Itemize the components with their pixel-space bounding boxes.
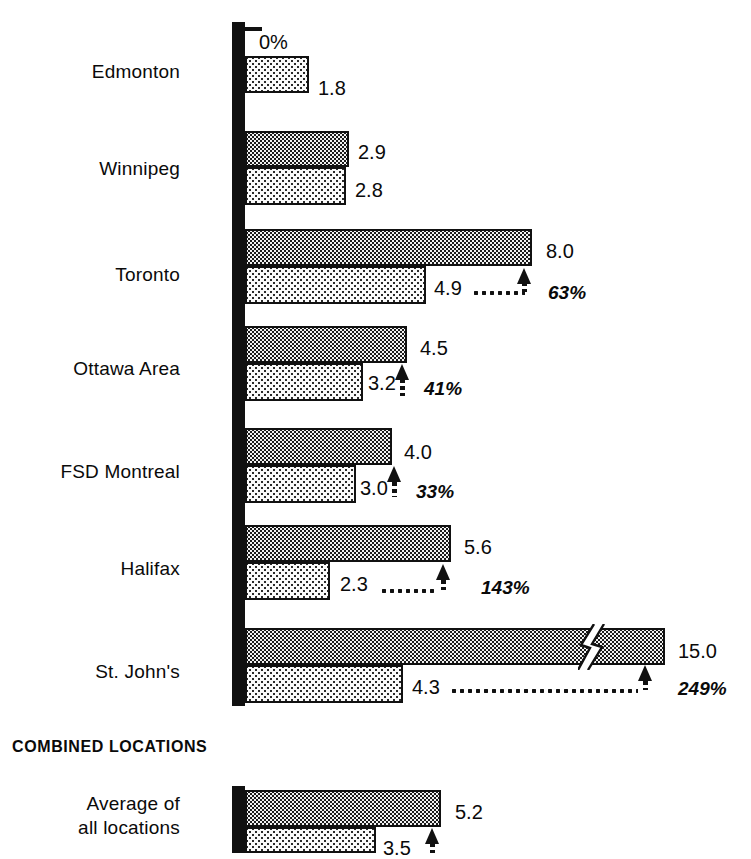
- increase-arrow-ottawa-area: [395, 364, 409, 380]
- value-label-combined-lower: 3.5: [383, 838, 411, 858]
- increase-arrow-stem-ottawa-area: [400, 379, 405, 396]
- axis-origin-label: 0%: [259, 32, 288, 52]
- value-label-winnipeg-lower: 2.8: [355, 180, 383, 200]
- bar-winnipeg-upper: [245, 131, 349, 167]
- increase-arrow-combined: [425, 828, 439, 844]
- bar-combined-upper: [245, 790, 441, 827]
- category-label-toronto: Toronto: [115, 263, 180, 286]
- increase-connector-st-johns: [450, 688, 638, 694]
- category-label-edmonton: Edmonton: [92, 60, 180, 83]
- increase-arrow-stem-st-johns: [643, 681, 648, 690]
- value-label-halifax-lower: 2.3: [340, 574, 368, 594]
- bar-toronto-upper: [245, 229, 532, 266]
- pct-label-st-johns: 249%: [678, 679, 727, 698]
- increase-arrow-fsd-montreal: [387, 466, 401, 482]
- bar-ottawa-area-upper: [245, 326, 407, 363]
- category-label-st-johns: St. John's: [95, 660, 180, 683]
- increase-arrow-stem-combined: [430, 843, 435, 853]
- increase-arrow-st-johns: [638, 665, 652, 681]
- increase-connector-toronto: [472, 290, 525, 296]
- value-label-winnipeg-upper: 2.9: [358, 142, 386, 162]
- increase-arrow-halifax: [436, 564, 450, 580]
- pct-label-toronto: 63%: [548, 283, 586, 302]
- value-label-toronto-lower: 4.9: [434, 278, 462, 298]
- value-label-fsd-montreal-upper: 4.0: [404, 442, 432, 462]
- combined-locations-heading: COMBINED LOCATIONS: [12, 738, 207, 756]
- bar-edmonton-lower: [245, 56, 309, 93]
- value-label-fsd-montreal-lower: 3.0: [360, 478, 388, 498]
- scale-break-icon: [578, 624, 618, 670]
- bar-fsd-montreal-lower: [245, 465, 356, 503]
- value-label-halifax-upper: 5.6: [464, 537, 492, 557]
- chart-baseline-axis: [232, 22, 245, 706]
- pct-label-ottawa-area: 41%: [424, 379, 462, 398]
- bar-winnipeg-lower: [245, 167, 346, 205]
- value-label-st-johns-upper: 15.0: [678, 641, 717, 661]
- pct-label-fsd-montreal: 33%: [416, 482, 454, 501]
- value-label-toronto-upper: 8.0: [546, 241, 574, 261]
- bar-fsd-montreal-upper: [245, 428, 392, 465]
- increase-connector-halifax: [380, 588, 436, 594]
- value-label-combined-upper: 5.2: [455, 802, 483, 822]
- bar-toronto-lower: [245, 266, 426, 304]
- increase-arrow-toronto: [517, 268, 531, 284]
- category-label-halifax: Halifax: [121, 557, 180, 580]
- value-label-edmonton-lower: 1.8: [318, 78, 346, 98]
- value-label-st-johns-lower: 4.3: [412, 677, 440, 697]
- chart-baseline-axis-combined: [232, 786, 245, 853]
- bar-halifax-upper: [245, 525, 451, 562]
- increase-arrow-stem-fsd-montreal: [392, 482, 397, 497]
- combined-label-line1: Average of: [86, 792, 180, 815]
- bar-halifax-lower: [245, 562, 330, 600]
- pct-label-halifax: 143%: [481, 578, 530, 597]
- bar-combined-lower: [245, 827, 376, 853]
- combined-label-line2: all locations: [78, 816, 180, 839]
- increase-arrow-stem-halifax: [441, 580, 446, 590]
- value-label-ottawa-area-upper: 4.5: [420, 338, 448, 358]
- category-label-ottawa-area: Ottawa Area: [73, 357, 180, 380]
- bar-ottawa-area-lower: [245, 363, 363, 401]
- value-label-ottawa-area-lower: 3.2: [368, 373, 396, 393]
- bar-st-johns-lower: [245, 665, 403, 703]
- category-label-fsd-montreal: FSD Montreal: [60, 460, 180, 483]
- category-label-winnipeg: Winnipeg: [99, 157, 180, 180]
